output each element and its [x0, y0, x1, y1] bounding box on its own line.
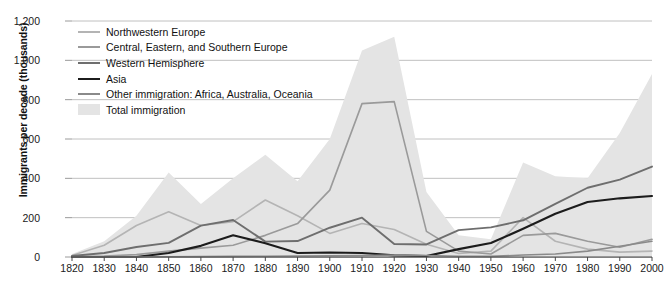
y-axis-tick-label: 400: [2, 173, 40, 183]
legend-item-label: Northwestern Europe: [106, 26, 205, 38]
legend-item[interactable]: Other immigration: Africa, Australia, Oc…: [78, 86, 328, 102]
y-axis-tick-label: 600: [2, 134, 40, 144]
y-axis-ticks: 1,2001,0008006004002000: [0, 0, 40, 282]
y-axis-tick-label: 200: [2, 213, 40, 223]
legend-line-swatch: [78, 46, 100, 48]
legend-item-label: Western Hemisphere: [106, 57, 204, 69]
legend-line-swatch: [78, 93, 100, 95]
x-axis-tick-label: 2000: [632, 262, 668, 274]
y-axis-tick-label: 0: [2, 252, 40, 262]
y-axis-tick-label: 800: [2, 95, 40, 105]
legend-item[interactable]: Western Hemisphere: [78, 55, 328, 71]
legend-item-label: Asia: [106, 73, 126, 85]
legend-item[interactable]: Asia: [78, 71, 328, 87]
legend-item-label: Central, Eastern, and Southern Europe: [106, 41, 288, 53]
legend-item-label: Total immigration: [106, 104, 185, 116]
legend-item[interactable]: Total immigration: [78, 102, 328, 118]
legend-line-swatch: [78, 78, 100, 80]
legend-line-swatch: [78, 31, 100, 33]
legend-line-swatch: [78, 62, 100, 64]
legend-item[interactable]: Northwestern Europe: [78, 24, 328, 40]
chart-legend: Northwestern EuropeCentral, Eastern, and…: [78, 24, 328, 118]
legend-item[interactable]: Central, Eastern, and Southern Europe: [78, 40, 328, 56]
legend-item-label: Other immigration: Africa, Australia, Oc…: [106, 88, 313, 100]
y-axis-tick-label: 1,200: [2, 16, 40, 26]
legend-area-swatch: [78, 104, 100, 115]
y-axis-tick-label: 1,000: [2, 55, 40, 65]
